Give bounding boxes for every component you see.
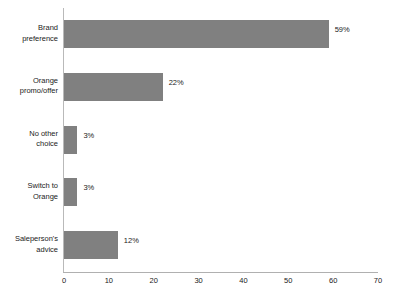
bar[interactable] xyxy=(64,73,163,101)
x-axis-tick-label: 70 xyxy=(374,276,382,286)
x-axis-tick-label: 60 xyxy=(329,276,337,286)
bar-value-label: 59% xyxy=(335,26,350,34)
y-axis-tick-label: No other choice xyxy=(0,129,58,150)
bar[interactable] xyxy=(64,178,77,206)
bar-row: 22% xyxy=(64,61,378,114)
bar-row: 59% xyxy=(64,8,378,61)
x-axis-tick-label: 20 xyxy=(150,276,158,286)
x-axis-tick-label: 0 xyxy=(62,276,66,286)
x-axis-tick-label: 50 xyxy=(284,276,292,286)
y-axis-tick-label: Orange promo/offer xyxy=(0,76,58,97)
bar-row: 3% xyxy=(64,114,378,167)
bar-row: 3% xyxy=(64,166,378,219)
bar-value-label: 22% xyxy=(169,79,184,87)
bar[interactable] xyxy=(64,231,118,259)
bar-value-label: 3% xyxy=(83,184,94,192)
bar-chart: Brand preference Orange promo/offer No o… xyxy=(0,0,394,299)
bar-row: 12% xyxy=(64,219,378,272)
x-axis-tick-label: 30 xyxy=(194,276,202,286)
bar[interactable] xyxy=(64,20,329,48)
plot-area: 59% 22% 3% 3% 12% xyxy=(64,8,378,272)
bar-value-label: 3% xyxy=(83,132,94,140)
x-axis-line xyxy=(63,272,378,273)
y-axis-tick-label: Saleperson's advice xyxy=(0,234,58,255)
bar-value-label: 12% xyxy=(124,237,139,245)
y-axis-tick-label: Switch to Orange xyxy=(0,181,58,202)
x-axis-tick-labels: 0 10 20 30 40 50 60 70 xyxy=(0,276,394,290)
bar[interactable] xyxy=(64,126,77,154)
y-axis-tick-labels: Brand preference Orange promo/offer No o… xyxy=(0,8,58,272)
x-axis-tick-label: 10 xyxy=(105,276,113,286)
y-axis-tick-label: Brand preference xyxy=(0,23,58,44)
x-axis-tick-label: 40 xyxy=(239,276,247,286)
